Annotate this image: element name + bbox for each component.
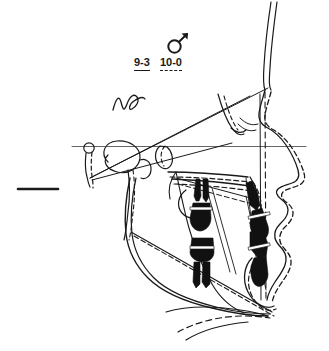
- lower-molar-root-2: [202, 262, 210, 288]
- upper-molar-crown: [194, 179, 201, 201]
- upper-incisor-crown: [246, 181, 260, 210]
- lower-molar-band: [190, 246, 214, 249]
- lower-incisor-root: [251, 256, 268, 286]
- male-symbol-icon: [165, 31, 191, 55]
- legend-rule-dashed: [160, 70, 182, 71]
- legend-label-age-first: 9-3: [134, 56, 150, 68]
- lower-molar-crown: [190, 238, 214, 262]
- legend-rule-solid: [134, 70, 150, 71]
- upper-molar-root-1: [203, 179, 209, 202]
- legend-entry-first: 9-3: [134, 56, 150, 71]
- lower-molar-root-1: [193, 262, 200, 288]
- upper-molar-band: [190, 207, 212, 210]
- legend-label-age-second: 10-0: [160, 56, 182, 68]
- legend-entry-second: 10-0: [160, 56, 182, 71]
- tracing-legend: 9-3 10-0: [134, 56, 182, 71]
- ceph-tracing-canvas: 9-3 10-0: [0, 0, 329, 351]
